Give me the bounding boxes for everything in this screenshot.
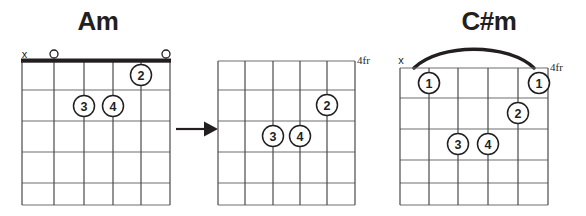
nut-bar-am	[21, 59, 171, 63]
svg-text:1: 1	[426, 77, 433, 91]
svg-text:2: 2	[515, 107, 522, 121]
fingering-markers-csharpm: 1 1 2 3 4	[419, 73, 550, 155]
svg-text:3: 3	[81, 100, 88, 114]
chord-diagram-shifted: 2 3 4 4fr	[196, 0, 392, 216]
string-marker-mute-string1: x	[398, 54, 404, 66]
finger-marker-4: 4	[103, 96, 124, 117]
chord-chart-stage: Am x	[0, 0, 586, 216]
svg-text:2: 2	[138, 69, 145, 83]
svg-text:4: 4	[110, 100, 117, 114]
svg-text:3: 3	[455, 138, 462, 152]
fret-lines-am	[22, 90, 170, 205]
finger-marker-1-string6: 1	[529, 73, 550, 94]
fretboard-grid-shifted: 2 3 4	[196, 44, 392, 214]
svg-text:1: 1	[536, 77, 543, 91]
sharp-accidental-icon: #	[480, 6, 494, 36]
chord-diagram-am: Am x	[0, 0, 196, 216]
svg-text:4: 4	[297, 130, 304, 144]
chord-title-root: C	[462, 6, 480, 36]
string-marker-open-string2	[50, 50, 58, 58]
string-marker-open-string6	[162, 50, 170, 58]
finger-marker-4: 4	[478, 134, 499, 155]
chord-title-am: Am	[0, 6, 196, 36]
string-marker-mute-string1: x	[22, 48, 28, 60]
finger-marker-1-string2: 1	[419, 73, 440, 94]
fret-lines-shifted	[218, 61, 355, 205]
finger-marker-3: 3	[263, 126, 284, 147]
finger-marker-2: 2	[508, 103, 529, 124]
chord-title-csharpm: C#m	[392, 6, 586, 36]
barre-arc	[414, 49, 534, 68]
fret-position-label-csharpm: 4fr	[550, 62, 563, 73]
finger-marker-2: 2	[317, 95, 338, 116]
fretboard-grid-am: x	[0, 44, 196, 214]
svg-text:4: 4	[485, 138, 492, 152]
svg-text:2: 2	[324, 99, 331, 113]
chord-title-quality: m	[494, 6, 517, 36]
finger-marker-3: 3	[74, 96, 95, 117]
finger-marker-4: 4	[290, 126, 311, 147]
fret-position-label-shifted: 4fr	[357, 55, 370, 66]
finger-marker-2: 2	[131, 65, 152, 86]
svg-text:3: 3	[270, 130, 277, 144]
chord-diagram-csharpm: C#m x	[392, 0, 586, 216]
finger-marker-3: 3	[448, 134, 469, 155]
